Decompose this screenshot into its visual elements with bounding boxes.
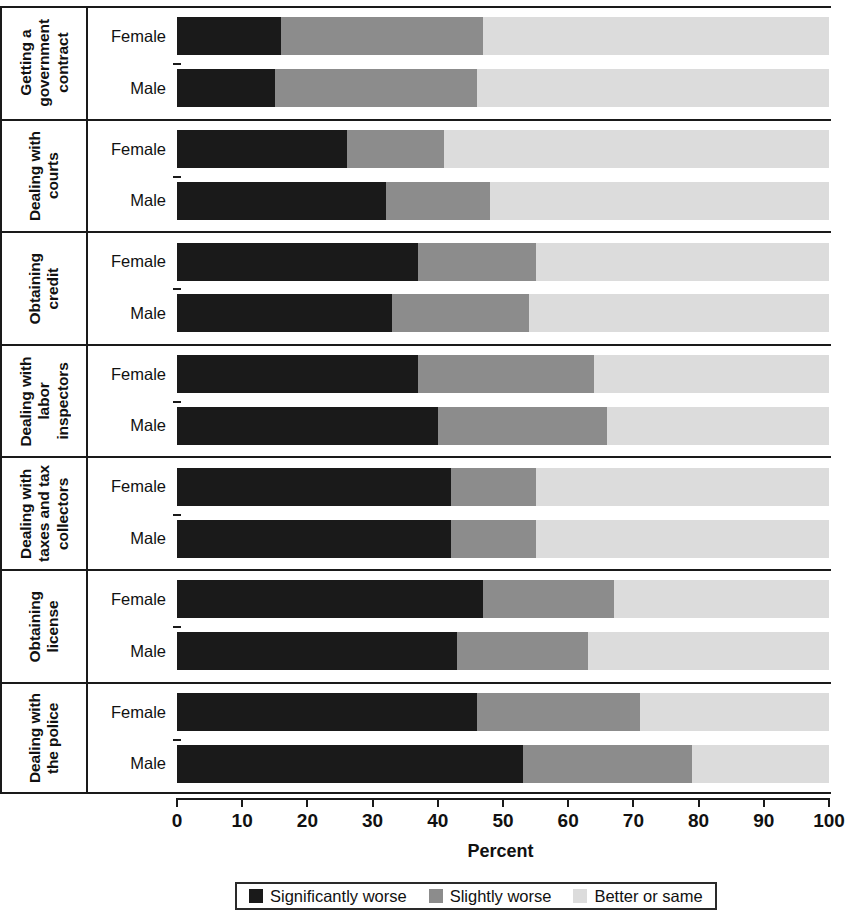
series-label-cell: Female [88,239,176,285]
series-label-cell: Male [88,403,176,449]
bar-segment [281,17,483,55]
series-label: Male [130,754,166,773]
x-tick-label: 80 [688,810,709,832]
x-tick-label: 70 [623,810,644,832]
series-label: Male [130,79,166,98]
legend-item: Better or same [573,887,702,906]
bar-segment [614,580,829,618]
x-tick [241,798,243,807]
stacked-bar [177,69,829,107]
series-label-cell: Female [88,126,176,172]
x-tick-label: 50 [492,810,513,832]
bar-segment [177,745,523,783]
series-label-cell: Male [88,516,176,562]
series-label-cell: Female [88,464,176,510]
x-tick-label: 10 [232,810,253,832]
x-tick [502,798,504,807]
bar-segment [177,468,451,506]
x-tick-label: 40 [427,810,448,832]
bar-segment [490,182,829,220]
stacked-bar [177,632,829,670]
bar-segment [177,407,438,445]
series-label: Male [130,304,166,323]
category-label: Dealing with taxes and tax collectors [17,465,72,562]
stacked-bar [177,294,829,332]
stacked-bar [177,520,829,558]
legend-swatch-icon [573,889,587,903]
category-label: Obtaining license [26,591,63,662]
series-label: Male [130,416,166,435]
bar-segment [386,182,490,220]
bar-segment [177,130,347,168]
series-label: Female [111,27,166,46]
bar-segment [438,407,608,445]
bar-segment [177,182,386,220]
bar-segment [347,130,445,168]
category-label: Getting a government contract [17,19,72,107]
x-tick [698,798,700,807]
series-label: Male [130,529,166,548]
legend-label: Slightly worse [450,887,552,906]
series-label-cell: Female [88,351,176,397]
bar-segment [457,632,587,670]
series-label: Male [130,191,166,210]
bar-segment [536,243,829,281]
category-label-cell: Dealing with courts [2,121,88,232]
category-label-cell: Dealing with the police [2,684,88,793]
stacked-bar [177,130,829,168]
stacked-bar [177,17,829,55]
x-tick-label: 60 [558,810,579,832]
series-label: Female [111,140,166,159]
bar-segment [588,632,829,670]
series-label-cell: Male [88,65,176,111]
category-label: Dealing with courts [26,131,63,221]
bar-segment [177,632,457,670]
bar-segment [444,130,829,168]
bar-segment [418,243,535,281]
plot-area: Getting a government contractFemaleMaleD… [0,0,841,800]
bar-segment [477,693,640,731]
series-label: Female [111,365,166,384]
series-label: Female [111,477,166,496]
x-axis-title: Percent [0,841,841,862]
stacked-bar [177,355,829,393]
bar-segment [594,355,829,393]
bar-segment [523,745,693,783]
stacked-bar [177,693,829,731]
bar-segment [177,580,483,618]
stacked-bar [177,243,829,281]
series-label-cell: Male [88,628,176,674]
stacked-bar [177,182,829,220]
bar-segment [177,520,451,558]
series-label: Female [111,590,166,609]
series-label: Male [130,642,166,661]
legend-item: Significantly worse [249,887,407,906]
category-label-cell: Obtaining license [2,571,88,682]
x-tick-label: 90 [753,810,774,832]
stacked-bar [177,580,829,618]
x-tick [763,798,765,807]
bar-segment [483,17,829,55]
x-tick [306,798,308,807]
bar-segment [692,745,829,783]
bar-segment [418,355,594,393]
series-label-cell: Male [88,290,176,336]
x-tick-label: 0 [172,810,183,832]
stacked-bar [177,745,829,783]
bar-segment [529,294,829,332]
legend-item: Slightly worse [429,887,552,906]
x-tick [567,798,569,807]
series-label-cell: Female [88,689,176,735]
bar-segment [177,69,275,107]
category-label-cell: Dealing with taxes and tax collectors [2,458,88,569]
bar-segment [483,580,613,618]
category-label: Obtaining credit [26,253,63,324]
x-tick-label: 30 [362,810,383,832]
bar-segment [451,468,536,506]
category-label: Dealing with the police [26,693,63,783]
series-label: Female [111,703,166,722]
bar-segment [640,693,829,731]
bar-segment [177,17,281,55]
legend-swatch-icon [249,889,263,903]
bar-segment [177,243,418,281]
